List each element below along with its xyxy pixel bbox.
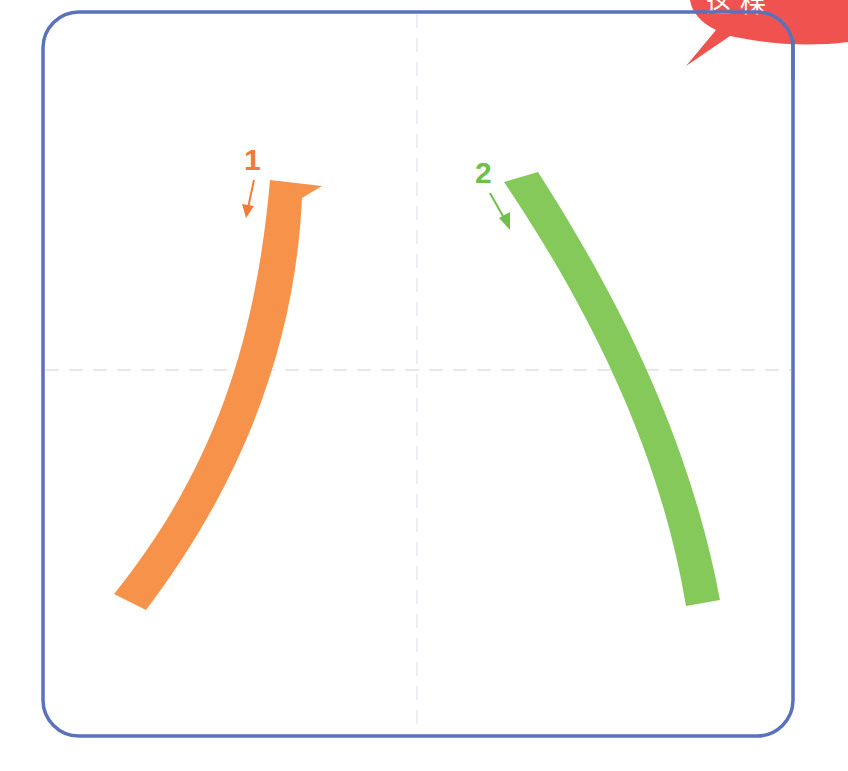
- stroke-2-arrow-icon: [490, 193, 510, 230]
- stroke-2-number: 2: [475, 156, 492, 189]
- banner-text: 这 棵: [706, 0, 766, 18]
- banner: 这 棵: [686, 0, 848, 66]
- stroke-order-diagram: 这 棵 1 2: [0, 0, 848, 771]
- stroke-1: 1: [114, 143, 322, 610]
- stroke-1-arrow-icon: [242, 180, 254, 218]
- stroke-2: 2: [475, 156, 720, 606]
- stroke-1-number: 1: [244, 143, 261, 176]
